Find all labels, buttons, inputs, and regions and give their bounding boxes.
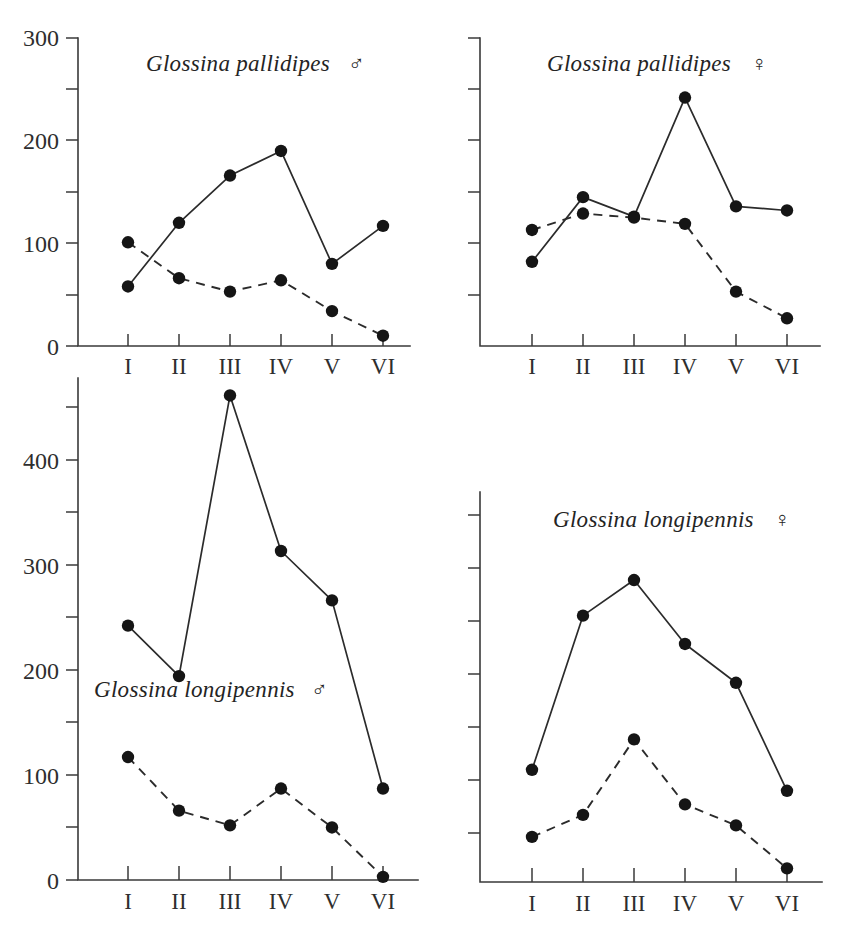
- data-point-marker: [679, 638, 691, 650]
- xtick-label: I: [528, 891, 536, 916]
- ytick-label: 300: [23, 553, 59, 579]
- data-point-marker: [173, 272, 185, 284]
- data-point-marker: [224, 169, 236, 181]
- panel-title-top-right: Glossina pallidipes ♀: [547, 51, 768, 76]
- data-point-marker: [275, 145, 287, 157]
- xtick-label: V: [324, 889, 341, 914]
- data-point-marker: [679, 91, 691, 103]
- data-point-marker: [781, 862, 793, 874]
- series-solid-markers: [122, 389, 389, 795]
- panel-bottom-right: I II III IV V VI Glossina longipennis ♀: [468, 492, 822, 916]
- xtick-label: II: [575, 891, 590, 916]
- data-point-marker: [730, 677, 742, 689]
- data-point-marker: [577, 207, 589, 219]
- xtick-label: V: [728, 354, 745, 379]
- data-point-marker: [577, 809, 589, 821]
- panel-title-bottom-right: Glossina longipennis ♀: [553, 507, 791, 532]
- panel-bottom-left: 400 300 200 100 0 I II III IV V VI Gloss…: [23, 378, 418, 914]
- ytick-labels-top-left: 300 200 100 0: [23, 25, 59, 360]
- data-point-marker: [526, 256, 538, 268]
- xtick-label: VI: [775, 891, 799, 916]
- ytick-label: 0: [47, 868, 59, 894]
- data-point-marker: [377, 871, 389, 883]
- data-point-marker: [526, 764, 538, 776]
- data-point-marker: [122, 751, 134, 763]
- data-point-marker: [377, 330, 389, 342]
- series-dashed-markers: [526, 733, 793, 874]
- series-solid-markers: [526, 91, 793, 268]
- yticks-bottom-right: [468, 515, 480, 833]
- ytick-label: 200: [23, 128, 59, 154]
- series-dashed-markers: [526, 207, 793, 324]
- panel-title-text: Glossina longipennis: [553, 507, 754, 532]
- yticks-top-left: [66, 38, 78, 346]
- xtick-label: III: [219, 354, 242, 379]
- xtick-label: VI: [775, 354, 799, 379]
- xtick-label: IV: [269, 354, 294, 379]
- data-point-marker: [781, 785, 793, 797]
- sex-symbol-female: ♀: [751, 51, 768, 76]
- ytick-label: 100: [23, 231, 59, 257]
- xtick-label: V: [728, 891, 745, 916]
- xtick-label: IV: [269, 889, 294, 914]
- data-point-marker: [730, 285, 742, 297]
- xticks-top-left: [128, 334, 383, 346]
- series-dashed-line: [128, 757, 383, 877]
- data-point-marker: [377, 782, 389, 794]
- ytick-label: 300: [23, 25, 59, 51]
- xtick-label: II: [171, 889, 186, 914]
- ytick-label: 0: [47, 334, 59, 360]
- panel-title-text: Glossina longipennis: [94, 677, 295, 702]
- data-point-marker: [730, 819, 742, 831]
- data-point-marker: [326, 594, 338, 606]
- data-point-marker: [628, 733, 640, 745]
- yticks-bottom-left: [66, 407, 78, 880]
- ytick-labels-bottom-left: 400 300 200 100 0: [23, 448, 59, 894]
- ytick-label: 200: [23, 658, 59, 684]
- ytick-label: 400: [23, 448, 59, 474]
- xtick-label: IV: [673, 891, 698, 916]
- series-solid-line: [532, 98, 787, 262]
- ytick-label: 100: [23, 763, 59, 789]
- series-dashed-line: [532, 739, 787, 868]
- xtick-label: VI: [371, 354, 395, 379]
- data-point-marker: [224, 285, 236, 297]
- sex-symbol-male: ♂: [311, 677, 328, 702]
- data-point-marker: [173, 804, 185, 816]
- panel-title-text: Glossina pallidipes: [146, 51, 330, 76]
- sex-symbol-male: ♂: [348, 51, 365, 76]
- axis-top-right: [480, 38, 820, 346]
- series-dashed-markers: [122, 751, 389, 883]
- series-solid-line: [128, 151, 383, 287]
- xtick-labels-top-left: I II III IV V VI: [124, 354, 395, 379]
- data-point-marker: [628, 211, 640, 223]
- panel-title-text: Glossina pallidipes: [547, 51, 731, 76]
- data-point-marker: [377, 220, 389, 232]
- series-solid-markers: [526, 574, 793, 797]
- data-point-marker: [526, 224, 538, 236]
- yticks-top-right: [468, 38, 480, 295]
- xticks-top-right: [532, 334, 787, 346]
- series-dashed-line: [128, 242, 383, 335]
- data-point-marker: [679, 798, 691, 810]
- data-point-marker: [730, 200, 742, 212]
- xtick-labels-bottom-right: I II III IV V VI: [528, 891, 799, 916]
- xtick-label: III: [623, 891, 646, 916]
- series-solid-line: [128, 395, 383, 788]
- data-point-marker: [326, 305, 338, 317]
- xtick-labels-bottom-left: I II III IV V VI: [124, 889, 395, 914]
- data-point-marker: [781, 312, 793, 324]
- data-point-marker: [122, 619, 134, 631]
- axis-bottom-right: [480, 492, 822, 882]
- panel-title-top-left: Glossina pallidipes ♂: [146, 51, 365, 76]
- data-point-marker: [628, 574, 640, 586]
- data-point-marker: [275, 274, 287, 286]
- data-point-marker: [577, 609, 589, 621]
- xtick-label: IV: [673, 354, 698, 379]
- xtick-label: II: [171, 354, 186, 379]
- xtick-label: I: [124, 354, 132, 379]
- data-point-marker: [577, 191, 589, 203]
- data-point-marker: [526, 831, 538, 843]
- xtick-label: V: [324, 354, 341, 379]
- panel-title-bottom-left: Glossina longipennis ♂: [94, 677, 328, 702]
